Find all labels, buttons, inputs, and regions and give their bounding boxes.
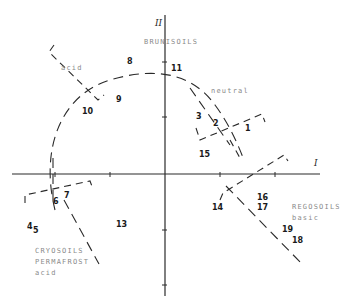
zone-label-rego: REGOSOILS: [292, 203, 341, 211]
point-2: 2: [213, 119, 219, 128]
zone-label-acid-top: acid: [61, 64, 83, 72]
point-13: 13: [116, 220, 127, 229]
zone-label-cryo-3: acid: [35, 269, 57, 277]
point-9: 9: [116, 95, 122, 104]
point-16: 16: [257, 193, 269, 202]
acid-bracket: [49, 45, 104, 100]
point-19: 19: [282, 225, 294, 234]
axis-i-label: I: [313, 158, 318, 168]
point-11: 11: [171, 64, 183, 73]
point-10: 10: [82, 107, 94, 116]
point-6: 6: [53, 197, 59, 206]
zone-label-bruni: BRUNISOILS: [144, 38, 198, 46]
point-14: 14: [212, 203, 224, 212]
point-1: 1: [245, 124, 251, 133]
zone-label-rego-sub: basic: [292, 214, 319, 222]
point-8: 8: [127, 57, 133, 66]
neutral-cross: [230, 140, 240, 158]
zone-label-neutral: neutral: [211, 87, 249, 95]
zone-label-cryo: CRYOSOILS: [35, 247, 84, 255]
axis-ii-label: II: [154, 18, 163, 28]
cryo-bracket: [25, 181, 93, 203]
zone-label-cryo-2: PERMAFROST: [35, 258, 89, 266]
point-5: 5: [33, 226, 39, 235]
neutral-bracket: [196, 114, 265, 140]
point-18: 18: [292, 236, 304, 245]
point-7: 7: [64, 191, 70, 200]
ordination-diagram: II I BRUNISOILS acid neutral REGOSOILS b…: [0, 0, 352, 305]
point-3: 3: [196, 112, 202, 121]
point-15: 15: [199, 150, 211, 159]
rego-bracket: [220, 155, 288, 200]
point-17: 17: [257, 203, 268, 212]
